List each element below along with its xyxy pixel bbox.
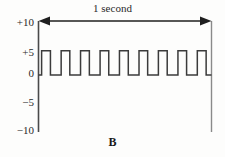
- duration-arrow: [39, 17, 212, 26]
- waveform-plot: [0, 0, 225, 157]
- duration-arrow-head-left: [39, 17, 51, 26]
- duration-arrow-head-right: [200, 17, 212, 26]
- panel-label-b: B: [0, 136, 225, 148]
- axis-lines: [39, 21, 212, 132]
- square-wave-trace: [39, 51, 212, 75]
- waveform-figure-panel-b: 1 second +10 +5 0 −5 −10 B: [0, 0, 225, 157]
